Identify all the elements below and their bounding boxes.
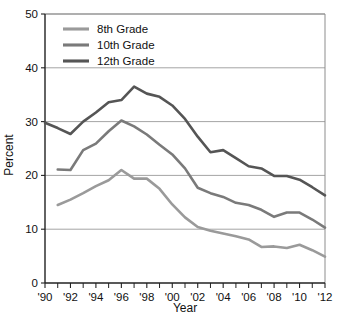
- legend-label: 12th Grade: [97, 55, 155, 67]
- line-chart: 01020304050 '90'92'94'96'98'00'02'04'06'…: [0, 0, 338, 316]
- chart-legend: 8th Grade10th Grade12th Grade: [63, 23, 155, 67]
- x-tick-label: '98: [139, 291, 154, 303]
- y-tick-label: 0: [32, 277, 38, 289]
- y-tick-label: 20: [25, 169, 38, 181]
- y-tick-label: 10: [25, 223, 38, 235]
- x-tick-label: '90: [38, 291, 53, 303]
- y-tick-label: 50: [25, 8, 38, 20]
- x-tick-label: '92: [63, 291, 78, 303]
- x-tick-label: '06: [241, 291, 256, 303]
- y-axis-title: Percent: [2, 134, 16, 176]
- x-tick-label: '04: [216, 291, 232, 303]
- legend-label: 8th Grade: [97, 23, 148, 35]
- y-axis-tick-labels: 01020304050: [25, 8, 38, 289]
- chart-canvas: 01020304050 '90'92'94'96'98'00'02'04'06'…: [0, 0, 338, 316]
- y-tick-label: 40: [25, 62, 38, 74]
- x-tick-label: '96: [114, 291, 129, 303]
- x-tick-label: '10: [292, 291, 307, 303]
- x-axis-title: Year: [173, 301, 197, 315]
- y-tick-label: 30: [25, 116, 38, 128]
- x-axis-ticks: [45, 283, 325, 288]
- x-tick-label: '94: [88, 291, 104, 303]
- x-tick-label: '12: [318, 291, 333, 303]
- x-tick-label: '08: [267, 291, 282, 303]
- legend-label: 10th Grade: [97, 39, 155, 51]
